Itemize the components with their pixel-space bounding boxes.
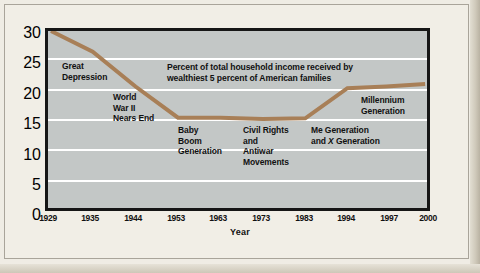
annotation-millennium: MillenniumGeneration	[361, 95, 405, 116]
annotation-me-generation: Me Generationand X Generation	[311, 125, 380, 146]
y-axis-tick-10: 10	[20, 146, 41, 164]
page-edge-shadow-bottom	[0, 264, 480, 273]
y-axis-tick-0: 0	[20, 206, 41, 224]
chart-figure: 30 25 20 15 10 5 0 Percent 1929 1935 194…	[0, 0, 480, 273]
y-axis-tick-20: 20	[20, 85, 41, 103]
x-axis-tick-1929: 1929	[39, 213, 57, 223]
annotation-world-war-ii: WorldWar IINears End	[113, 92, 154, 124]
x-axis-tick-1983: 1983	[295, 213, 313, 223]
x-axis-tick-1997: 1997	[380, 213, 398, 223]
annotation-baby-boom: BabyBoomGeneration	[178, 125, 222, 157]
y-axis-tick-25: 25	[20, 54, 41, 72]
x-axis-tick-1944: 1944	[124, 213, 142, 223]
y-axis-tick-15: 15	[20, 115, 41, 133]
x-axis-tick-1973: 1973	[252, 213, 270, 223]
annotation-great-depression: GreatDepression	[62, 61, 107, 82]
x-axis-title: Year	[0, 227, 480, 237]
x-axis-tick-1953: 1953	[167, 213, 185, 223]
y-axis-title: Percent	[0, 70, 1, 104]
x-axis-tick-1994: 1994	[337, 213, 355, 223]
x-axis-tick-1963: 1963	[209, 213, 227, 223]
x-axis-tick-2000: 2000	[419, 213, 437, 223]
y-axis-tick-30: 30	[20, 24, 41, 42]
annotation-series-note: Percent of total household income receiv…	[167, 62, 353, 84]
annotation-civil-rights: Civil RightsandAntiwarMovements	[243, 125, 289, 167]
x-axis-tick-1935: 1935	[81, 213, 99, 223]
series-line-income-share	[48, 31, 427, 208]
plot-area: GreatDepression WorldWar IINears End Per…	[45, 28, 430, 211]
y-axis-tick-5: 5	[20, 176, 41, 194]
